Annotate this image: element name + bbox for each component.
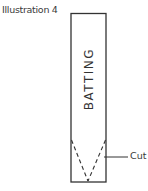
cut-line-left — [72, 140, 89, 181]
batting-strip-diagram: BATTING — [0, 0, 148, 191]
batting-strip-label: BATTING — [82, 48, 96, 110]
cut-label: Cut — [130, 150, 146, 161]
cut-line-right — [88, 140, 106, 181]
